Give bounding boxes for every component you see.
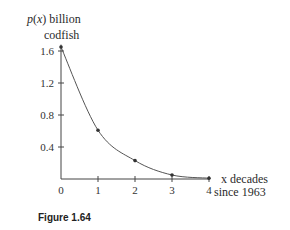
data-markers [59,45,211,180]
chart-svg: p(x) billion codfish x decades since 196… [0,0,290,230]
x-tick-label: 3 [169,184,175,196]
data-point [96,128,100,132]
tick-marks [58,51,209,182]
data-point [59,45,63,49]
data-point [170,173,174,177]
y-axis-title-line2: codfish [44,28,79,42]
x-tick-label: 0 [58,184,64,196]
x-axis-title-line2: since 1963 [214,185,266,199]
y-tick-label: 1.6 [40,45,54,57]
data-curve [61,47,209,178]
data-point [133,159,137,163]
y-tick-label: 0.4 [40,141,54,153]
x-tick-label: 4 [206,184,212,196]
figure-caption: Figure 1.64 [38,212,91,223]
y-axis-title-line1: p(x) billion [26,12,81,26]
y-tick-label: 1.2 [40,77,54,89]
tick-labels: 012340.40.81.21.6 [40,45,212,196]
x-axis-title-line1: x decades [221,172,268,186]
x-tick-label: 1 [95,184,101,196]
x-tick-label: 2 [132,184,138,196]
data-point [207,176,211,180]
y-tick-label: 0.8 [40,109,54,121]
